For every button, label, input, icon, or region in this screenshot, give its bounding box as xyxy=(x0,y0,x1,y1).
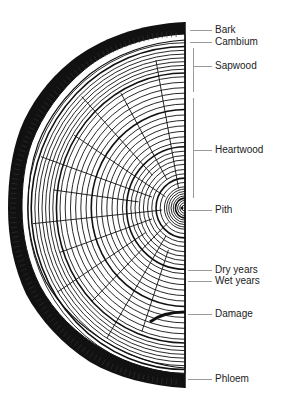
bracket-sapwood xyxy=(193,48,194,92)
leader-sapwood xyxy=(194,66,212,67)
label-heartwood: Heartwood xyxy=(215,144,263,156)
leader-dry-years xyxy=(188,270,212,271)
leader-wet-years xyxy=(188,281,212,282)
leader-damage xyxy=(188,314,212,315)
leader-pith xyxy=(188,210,212,211)
label-damage: Damage xyxy=(215,308,253,320)
label-wet-years: Wet years xyxy=(215,275,260,287)
leader-heartwood xyxy=(194,150,212,151)
label-sapwood: Sapwood xyxy=(215,60,257,72)
label-pith: Pith xyxy=(215,204,232,216)
label-phloem: Phloem xyxy=(215,373,249,385)
pith-center xyxy=(181,207,184,210)
leader-bark xyxy=(190,30,212,31)
label-cambium: Cambium xyxy=(215,36,258,48)
leader-phloem xyxy=(188,379,212,380)
bracket-heartwood xyxy=(193,98,194,198)
leader-cambium xyxy=(190,42,212,43)
label-bark: Bark xyxy=(215,24,236,36)
